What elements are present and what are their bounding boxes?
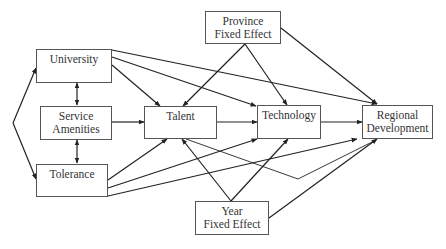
edge-origin-university	[13, 68, 36, 123]
edge-province-technology	[245, 44, 287, 105]
node-label: Talent	[166, 110, 195, 123]
node-tolerance: Tolerance	[36, 164, 108, 197]
node-regional-development: Regional Development	[362, 105, 433, 139]
edge-year-technology	[231, 139, 288, 201]
node-year-fixed-effect: Year Fixed Effect	[195, 201, 269, 235]
node-label-line2: Fixed Effect	[204, 218, 261, 231]
node-province-fixed-effect: Province Fixed Effect	[205, 11, 281, 44]
edge-university-regional	[112, 50, 377, 104]
edge-year-regional	[269, 139, 377, 218]
node-label: Tolerance	[49, 168, 94, 181]
node-technology: Technology	[257, 105, 321, 139]
node-label-line2: Amenities	[52, 123, 99, 136]
node-label-line1: Regional	[377, 109, 419, 122]
node-label-line2: Fixed Effect	[215, 28, 272, 41]
node-label-line1: Province	[223, 15, 264, 28]
node-service-amenities: Service Amenities	[40, 106, 112, 140]
edge-tolerance-technology	[108, 139, 257, 188]
path-diagram: University Service Amenities Tolerance T…	[0, 0, 446, 249]
node-talent: Talent	[144, 106, 217, 139]
node-university: University	[36, 49, 112, 83]
edge-talent-regional	[186, 139, 376, 179]
node-label: University	[50, 53, 99, 66]
node-label-line1: Service	[59, 110, 93, 123]
edge-province-regional	[281, 28, 377, 104]
node-label-line2: Development	[367, 122, 429, 135]
node-label: Technology	[262, 109, 316, 122]
node-label-line1: Year	[221, 205, 242, 218]
edge-origin-tolerance	[13, 123, 36, 179]
edge-tolerance-talent	[108, 139, 167, 180]
